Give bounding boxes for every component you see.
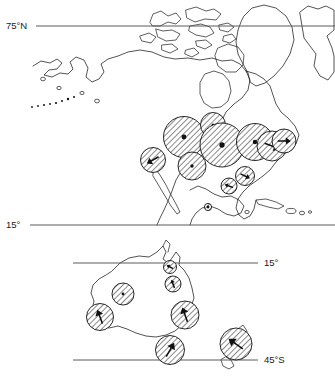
symbol-circle [141, 148, 166, 173]
symbol-circle [171, 301, 199, 329]
symbol-circle [165, 276, 181, 292]
symbol-circle [164, 261, 177, 274]
symbol-circle [204, 203, 211, 210]
symbol-centre-dot [182, 135, 187, 140]
map-canvas: 75°N 15° 15° 45°S [0, 0, 335, 377]
symbol-centre-dot [190, 164, 193, 167]
latitude-label-15-upper: 15° [6, 219, 21, 230]
latitude-label-75n: 75°N [6, 20, 27, 31]
symbol-circle [178, 152, 206, 180]
symbol-circle [220, 328, 252, 360]
symbol-centre-dot [122, 293, 125, 296]
symbol-circle [221, 178, 237, 194]
symbol-centre-dot [253, 140, 257, 144]
map-figure: 75°N 15° 15° 45°S [0, 0, 335, 377]
latitude-label-15-lower: 15° [264, 257, 279, 268]
symbol-circle [156, 336, 185, 365]
symbol-centre-dot [219, 142, 224, 147]
symbol-circle [112, 283, 134, 305]
symbol-circle [236, 167, 255, 186]
symbol-circle [164, 117, 205, 158]
symbol-circle [87, 304, 114, 331]
latitude-label-45s: 45°S [264, 354, 285, 365]
symbol-centre-dot [207, 206, 210, 209]
symbol-circle [272, 129, 296, 153]
